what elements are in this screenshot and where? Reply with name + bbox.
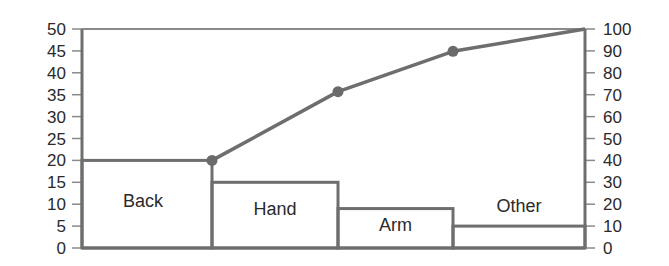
right-tick-label: 80 <box>603 64 622 83</box>
bar-label: Hand <box>253 199 296 219</box>
left-tick-label: 30 <box>47 108 66 127</box>
right-tick-label: 90 <box>603 42 622 61</box>
right-tick-label: 20 <box>603 195 622 214</box>
pareto-chart: 05101520253035404550 0102030405060708090… <box>0 0 669 266</box>
cumulative-marker <box>207 155 218 166</box>
right-tick-label: 30 <box>603 173 622 192</box>
bar-other <box>453 226 585 248</box>
bars: BackHandArmOther <box>82 160 585 248</box>
cumulative-marker <box>448 46 459 57</box>
cumulative-polyline <box>212 29 585 160</box>
right-tick-label: 60 <box>603 108 622 127</box>
left-tick-label: 40 <box>47 64 66 83</box>
right-tick-label: 50 <box>603 130 622 149</box>
cumulative-marker <box>333 86 344 97</box>
right-tick-label: 40 <box>603 151 622 170</box>
left-tick-label: 10 <box>47 195 66 214</box>
left-y-axis: 05101520253035404550 <box>47 20 82 258</box>
left-tick-label: 0 <box>57 239 66 258</box>
left-tick-label: 5 <box>57 217 66 236</box>
right-tick-label: 0 <box>603 239 612 258</box>
right-tick-label: 70 <box>603 86 622 105</box>
bar-label: Back <box>123 191 164 211</box>
left-tick-label: 35 <box>47 86 66 105</box>
bar-label: Arm <box>379 215 412 235</box>
left-tick-label: 50 <box>47 20 66 39</box>
left-tick-label: 15 <box>47 173 66 192</box>
left-tick-label: 45 <box>47 42 66 61</box>
right-tick-label: 100 <box>603 20 631 39</box>
cumulative-line <box>207 29 586 166</box>
left-tick-label: 20 <box>47 151 66 170</box>
right-tick-label: 10 <box>603 217 622 236</box>
bar-label: Other <box>496 196 541 216</box>
left-tick-label: 25 <box>47 130 66 149</box>
right-y-axis: 0102030405060708090100 <box>585 20 631 258</box>
